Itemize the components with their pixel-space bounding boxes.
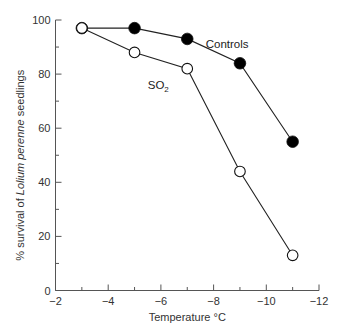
axes xyxy=(56,20,320,291)
y-tick-label: 80 xyxy=(38,68,50,80)
y-axis-label-prefix: % survival of xyxy=(14,195,26,260)
series-label-so2-subscript: 2 xyxy=(164,85,169,94)
data-point-so2 xyxy=(129,47,140,58)
x-tick-label: −8 xyxy=(207,295,220,307)
x-tick-label: −6 xyxy=(155,295,168,307)
series-lines xyxy=(82,28,293,255)
data-point-controls xyxy=(181,33,193,45)
y-tick-label: 20 xyxy=(38,230,50,242)
series-line-so2 xyxy=(82,28,293,255)
y-tick-label: 100 xyxy=(32,14,50,26)
y-axis-label-species: Lolium perenne xyxy=(14,119,26,195)
ticks: 020406080100−2−4−6−8−10−12 xyxy=(32,14,328,307)
data-point-controls xyxy=(234,57,246,69)
y-tick-label: 60 xyxy=(38,122,50,134)
data-point-so2 xyxy=(182,63,193,74)
series-label-controls: Controls xyxy=(206,38,249,50)
data-point-controls xyxy=(287,136,299,148)
data-point-so2 xyxy=(235,166,246,177)
y-tick-label: 40 xyxy=(38,176,50,188)
series-label-so2: SO2 xyxy=(148,79,170,94)
series-line-controls xyxy=(82,28,293,142)
x-tick-label: −10 xyxy=(257,295,276,307)
y-axis-label: % survival of Lolium perenne seedlings xyxy=(14,69,26,260)
data-point-so2 xyxy=(77,23,88,34)
data-point-so2 xyxy=(287,250,298,261)
x-tick-label: −4 xyxy=(102,295,115,307)
chart: 020406080100−2−4−6−8−10−12 Temperature °… xyxy=(0,0,339,336)
markers xyxy=(76,22,298,260)
x-axis-label: Temperature °C xyxy=(149,311,226,323)
x-tick-label: −2 xyxy=(49,295,62,307)
y-axis-label-suffix: seedlings xyxy=(14,69,26,119)
x-tick-label: −12 xyxy=(310,295,329,307)
data-point-controls xyxy=(129,22,141,34)
series-label-so2-main: SO xyxy=(148,79,165,91)
